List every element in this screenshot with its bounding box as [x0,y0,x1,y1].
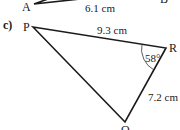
angle-r-value: 58° [145,52,160,64]
vertex-p-label: P [23,20,30,34]
vertex-q-label: Q [121,123,130,130]
side-pr-length: 9.3 cm [97,24,127,36]
vertex-r-label: R [169,41,177,55]
triangle-pqr [33,27,166,122]
side-ab-length: 6.1 cm [85,2,115,14]
side-rq-length: 7.2 cm [148,91,178,103]
question-label: c) [3,18,12,32]
vertex-a-label: A [22,0,31,14]
vertex-b-label: B [160,0,168,6]
triangle-abc-fragment [34,0,80,4]
triangle-diagram: A B 6.1 cm c) P R Q 9.3 cm 58° 7.2 cm [0,0,180,130]
